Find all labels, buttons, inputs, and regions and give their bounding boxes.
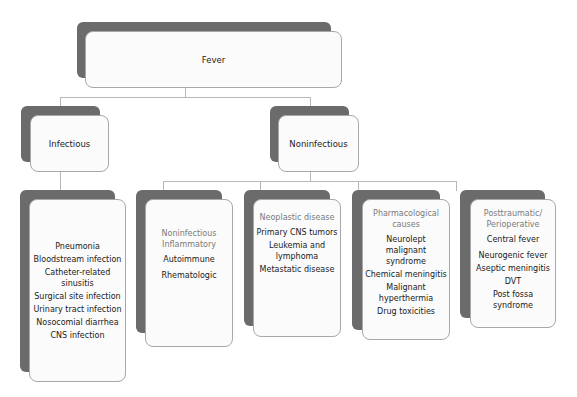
list-item: Leukemia and lymphoma (267, 240, 327, 262)
infectious-label: Infectious (49, 139, 91, 149)
connector-noninfectious-down (310, 172, 311, 181)
list-item: Aseptic meningitis (476, 263, 550, 274)
list-item: Neurogenic fever (479, 250, 548, 261)
list-item: CNS infection (51, 330, 105, 341)
fever-label: Fever (202, 55, 225, 65)
list-item: Post fossa syndrome (473, 289, 553, 311)
neoplastic-node: Neoplastic disease Primary CNS tumors Le… (253, 199, 341, 337)
inflammatory-heading: Noninfectious Inflammatory (154, 228, 224, 250)
pharmacological-node: Pharmacological causes Neurolept maligna… (362, 199, 450, 340)
connector-root-down (185, 88, 186, 97)
list-item: Bloodstream infection (34, 254, 122, 265)
fever-node: Fever (85, 31, 342, 88)
list-item: Central fever (487, 234, 539, 245)
list-item: Urinary tract infection (33, 304, 121, 315)
inflammatory-node: Noninfectious Inflammatory Autoimmune Rh… (145, 199, 233, 347)
connector-posttraumatic (456, 181, 457, 191)
list-item: Primary CNS tumors (257, 227, 338, 238)
list-item: Pneumonia (55, 241, 100, 252)
list-item: Metastatic disease (260, 264, 335, 275)
list-item: Nosocomial diarrhea (36, 317, 118, 328)
noninfectious-label: Noninfectious (289, 139, 347, 149)
list-item: DVT (505, 276, 521, 287)
list-item: Chemical meningitis (365, 269, 447, 280)
posttraumatic-heading: Posttraumatic/ Perioperative (481, 208, 545, 230)
pharmacological-heading: Pharmacological causes (371, 208, 441, 230)
infectious-list-node: Pneumonia Bloodstream infection Catheter… (29, 199, 126, 382)
list-item: Autoimmune (163, 254, 214, 265)
list-item: Surgical site infection (34, 291, 120, 302)
posttraumatic-node: Posttraumatic/ Perioperative Central fev… (470, 199, 556, 328)
list-item: Neurolept malignant syndrome (381, 234, 431, 267)
connector-infectious-down (60, 172, 61, 191)
connector-level2-horizontal (163, 181, 457, 182)
neoplastic-heading: Neoplastic disease (260, 212, 335, 223)
list-item: Catheter-related sinusitis (43, 267, 113, 289)
noninfectious-node: Noninfectious (278, 115, 359, 172)
list-item: Rhematologic (161, 270, 216, 281)
infectious-node: Infectious (30, 115, 109, 172)
connector-level1-horizontal (60, 97, 311, 98)
list-item: Malignant hyperthermia (376, 282, 436, 304)
list-item: Drug toxicities (377, 306, 435, 317)
